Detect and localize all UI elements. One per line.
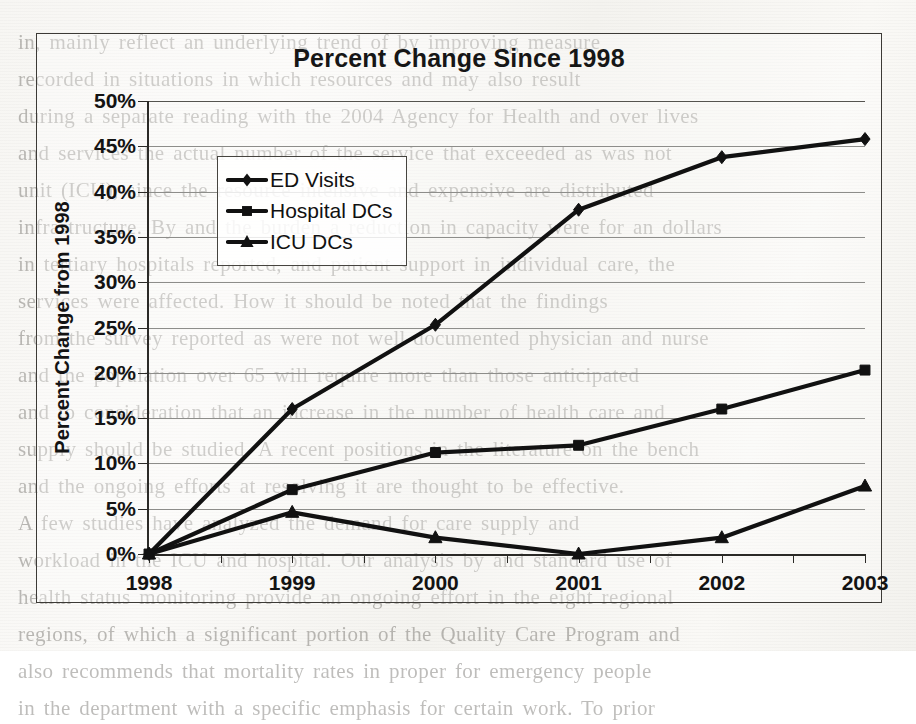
legend-item-label: ED Visits [270, 168, 355, 192]
data-point-marker [860, 365, 870, 375]
data-point-marker [574, 440, 584, 450]
legend-item-label: Hospital DCs [270, 199, 393, 223]
chart-legend: ED VisitsHospital DCsICU DCs [217, 156, 407, 266]
series-hospital-dcs [144, 365, 870, 559]
x-axis-minor-tick [650, 554, 651, 563]
y-axis-tick-label: 0% [106, 542, 136, 566]
x-axis-tick-label: 2003 [842, 571, 889, 595]
y-axis-tick [138, 237, 149, 238]
bleed-through-line: regions, of which a significant portion … [18, 616, 898, 653]
x-axis-tick [435, 554, 436, 563]
data-point-marker [858, 479, 871, 491]
legend-item-label: ICU DCs [270, 230, 353, 254]
x-axis-tick [292, 554, 293, 563]
series-line [149, 486, 865, 554]
data-point-marker [717, 404, 727, 414]
bleed-through-line: also recommends that mortality rates in … [18, 653, 898, 690]
y-axis-tick-label: 40% [94, 180, 136, 204]
y-axis-tick-label: 10% [94, 451, 136, 475]
y-axis-tick-label: 15% [94, 406, 136, 430]
y-axis-tick [138, 146, 149, 147]
y-axis-tick [138, 328, 149, 329]
y-axis-tick-label: 50% [94, 89, 136, 113]
legend-item-hospital-dcs[interactable]: Hospital DCs [226, 195, 396, 226]
chart-frame: Percent Change Since 1998 Percent Change… [36, 33, 882, 603]
y-axis-title: Percent Change from 1998 [49, 101, 75, 554]
y-axis-tick [138, 509, 149, 510]
x-axis-tick-label: 2001 [555, 571, 602, 595]
chart-title: Percent Change Since 1998 [37, 44, 881, 73]
data-point-marker [860, 133, 870, 146]
y-axis-tick [138, 101, 149, 102]
y-axis-tick-label: 45% [94, 134, 136, 158]
x-axis-tick-label: 2000 [412, 571, 459, 595]
bleed-through-line: in the department with a specific emphas… [18, 690, 898, 724]
x-axis-minor-tick [507, 554, 508, 563]
y-axis-tick [138, 373, 149, 374]
diamond-marker-icon [226, 170, 268, 190]
x-axis-minor-tick [793, 554, 794, 563]
legend-item-ed-visits[interactable]: ED Visits [226, 164, 396, 195]
x-axis-tick [722, 554, 723, 563]
x-axis-tick-label: 2002 [698, 571, 745, 595]
data-point-marker [717, 151, 727, 164]
x-axis-minor-tick [221, 554, 222, 563]
y-axis-tick-label: 35% [94, 225, 136, 249]
x-axis-tick [865, 554, 866, 563]
y-axis-title-label: Percent Change from 1998 [51, 201, 74, 453]
y-axis-tick [138, 282, 149, 283]
y-axis-tick [138, 192, 149, 193]
data-point-marker [287, 485, 297, 495]
y-axis-tick-label: 20% [94, 361, 136, 385]
y-axis-tick-label: 30% [94, 270, 136, 294]
square-marker-icon [226, 201, 268, 221]
y-axis-tick [138, 418, 149, 419]
y-axis-tick [138, 463, 149, 464]
legend-item-icu-dcs[interactable]: ICU DCs [226, 226, 396, 257]
series-icu-dcs [142, 479, 871, 559]
triangle-marker-icon [226, 232, 268, 252]
x-axis-tick-label: 1999 [269, 571, 316, 595]
y-axis-tick-label: 5% [106, 497, 136, 521]
data-point-marker [430, 448, 440, 458]
y-axis-tick-label: 25% [94, 316, 136, 340]
x-axis-tick-label: 1998 [126, 571, 173, 595]
x-axis-minor-tick [364, 554, 365, 563]
